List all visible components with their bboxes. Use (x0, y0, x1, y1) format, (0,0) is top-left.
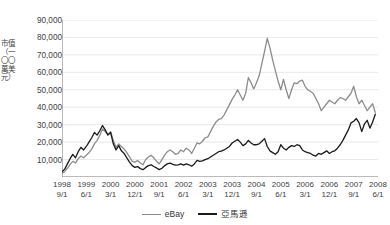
y-axis-tick-label: 90,000 (18, 16, 62, 25)
legend-item[interactable]: 亞馬遜 (198, 209, 248, 219)
y-axis-tick-label: 30,000 (18, 120, 62, 129)
x-axis-tick-labels: 1998 9/11999 6/12000 3/12000 12/12001 9/… (0, 180, 390, 204)
y-axis-tick-label: 50,000 (18, 85, 62, 94)
y-axis-title: 市值（一〇〇萬美元） (1, 40, 15, 83)
legend-label: 亞馬遜 (221, 209, 248, 219)
y-axis-tick-label: 70,000 (18, 50, 62, 59)
y-axis-tick-label: 60,000 (18, 68, 62, 77)
plot-area (62, 20, 378, 177)
chart-legend: eBay亞馬遜 (0, 205, 390, 223)
series-line (62, 114, 375, 172)
legend-item[interactable]: eBay (142, 209, 184, 219)
legend-color-swatch (142, 214, 161, 215)
y-axis-tick-label: 40,000 (18, 103, 62, 112)
x-axis-tick-label: 2008 6/1 (358, 180, 390, 199)
market-cap-line-chart: 市值（一〇〇萬美元） 90,00080,00070,00060,00050,00… (0, 0, 390, 225)
y-axis-tick-label: 80,000 (18, 33, 62, 42)
y-axis-tick-label: 10,000 (18, 155, 62, 164)
legend-color-swatch (198, 213, 217, 215)
plot-svg (62, 20, 378, 177)
legend-label: eBay (165, 209, 184, 219)
y-axis-tick-label: 20,000 (18, 138, 62, 147)
